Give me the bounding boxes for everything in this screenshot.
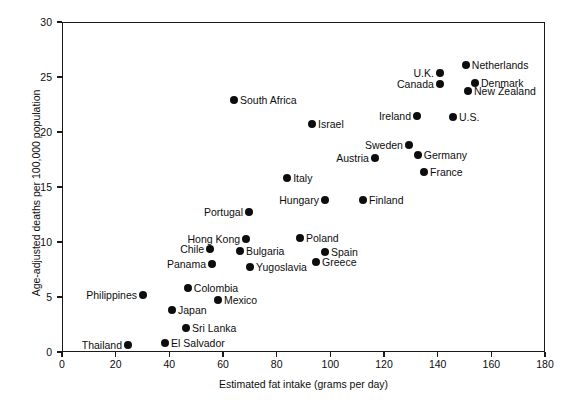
data-point-label: Ireland bbox=[379, 110, 411, 121]
data-point[interactable] bbox=[236, 247, 244, 255]
data-point-label: Sweden bbox=[365, 140, 403, 151]
data-point[interactable] bbox=[168, 306, 176, 314]
x-tick-label: 140 bbox=[429, 358, 447, 370]
data-point[interactable] bbox=[436, 69, 444, 77]
x-tick-mark bbox=[222, 352, 224, 357]
data-point-label: Chile bbox=[180, 243, 204, 254]
x-tick-mark bbox=[544, 352, 546, 357]
data-point[interactable] bbox=[296, 234, 304, 242]
data-point-label: Greece bbox=[322, 256, 356, 267]
x-tick-mark bbox=[330, 352, 332, 357]
x-tick-mark bbox=[169, 352, 171, 357]
data-point[interactable] bbox=[413, 112, 421, 120]
data-point[interactable] bbox=[161, 339, 169, 347]
data-point-label: Hungary bbox=[279, 195, 319, 206]
x-tick-label: 20 bbox=[110, 358, 122, 370]
x-tick-mark bbox=[115, 352, 117, 357]
y-axis-title: Age-adjusted deaths per 100,000 populati… bbox=[30, 43, 42, 343]
y-tick-label: 25 bbox=[40, 71, 52, 83]
data-point-label: Finland bbox=[369, 195, 403, 206]
x-tick-mark bbox=[276, 352, 278, 357]
data-point-label: New Zealand bbox=[474, 86, 536, 97]
data-point[interactable] bbox=[414, 151, 422, 159]
data-point[interactable] bbox=[124, 341, 132, 349]
data-point-label: France bbox=[430, 166, 463, 177]
data-point-label: Portugal bbox=[204, 207, 243, 218]
y-tick-label: 30 bbox=[40, 16, 52, 28]
x-tick-mark bbox=[491, 352, 493, 357]
data-point-label: Israel bbox=[318, 119, 344, 130]
data-point[interactable] bbox=[312, 258, 320, 266]
x-axis-title: Estimated fat intake (grams per day) bbox=[62, 378, 545, 390]
data-point[interactable] bbox=[464, 87, 472, 95]
x-tick-label: 0 bbox=[59, 358, 65, 370]
data-point-label: Thailand bbox=[82, 340, 122, 351]
data-point-label: Panama bbox=[167, 259, 206, 270]
x-tick-label: 120 bbox=[375, 358, 393, 370]
data-point[interactable] bbox=[208, 260, 216, 268]
x-tick-label: 160 bbox=[483, 358, 501, 370]
data-point-label: Philippines bbox=[86, 289, 137, 300]
data-point-label: Bulgaria bbox=[246, 245, 285, 256]
x-tick-mark bbox=[437, 352, 439, 357]
data-point-label: Germany bbox=[424, 150, 467, 161]
data-point[interactable] bbox=[436, 80, 444, 88]
data-point-label: Poland bbox=[306, 232, 339, 243]
data-point[interactable] bbox=[245, 208, 253, 216]
x-tick-label: 80 bbox=[271, 358, 283, 370]
scatter-chart-figure: 020406080100120140160180051015202530 Net… bbox=[0, 0, 564, 409]
data-point-label: Netherlands bbox=[472, 59, 529, 70]
y-tick-label: 15 bbox=[40, 181, 52, 193]
data-point-label: Canada bbox=[397, 78, 434, 89]
data-point[interactable] bbox=[371, 154, 379, 162]
data-point[interactable] bbox=[359, 196, 367, 204]
data-point-label: El Salvador bbox=[171, 338, 225, 349]
x-tick-label: 100 bbox=[322, 358, 340, 370]
data-point[interactable] bbox=[308, 120, 316, 128]
x-tick-label: 40 bbox=[163, 358, 175, 370]
data-point-label: Yugoslavia bbox=[256, 262, 307, 273]
data-point[interactable] bbox=[184, 284, 192, 292]
data-point-label: Japan bbox=[178, 305, 207, 316]
data-points-layer: NetherlandsU.K.DenmarkCanadaNew ZealandS… bbox=[62, 22, 545, 352]
data-point-label: Italy bbox=[293, 173, 312, 184]
x-tick-label: 180 bbox=[536, 358, 554, 370]
data-point-label: Mexico bbox=[224, 295, 257, 306]
y-tick-label: 10 bbox=[40, 236, 52, 248]
data-point[interactable] bbox=[449, 113, 457, 121]
data-point[interactable] bbox=[230, 96, 238, 104]
data-point[interactable] bbox=[206, 245, 214, 253]
data-point[interactable] bbox=[242, 235, 250, 243]
y-tick-label: 0 bbox=[46, 346, 52, 358]
x-tick-mark bbox=[383, 352, 385, 357]
x-tick-label: 60 bbox=[217, 358, 229, 370]
data-point[interactable] bbox=[214, 296, 222, 304]
x-tick-mark bbox=[61, 352, 63, 357]
data-point[interactable] bbox=[139, 291, 147, 299]
data-point[interactable] bbox=[246, 263, 254, 271]
data-point[interactable] bbox=[405, 141, 413, 149]
data-point[interactable] bbox=[182, 324, 190, 332]
data-point-label: Austria bbox=[336, 153, 369, 164]
data-point[interactable] bbox=[462, 61, 470, 69]
y-tick-label: 20 bbox=[40, 126, 52, 138]
data-point[interactable] bbox=[321, 196, 329, 204]
y-tick-label: 5 bbox=[46, 291, 52, 303]
data-point-label: Colombia bbox=[194, 283, 238, 294]
data-point[interactable] bbox=[420, 168, 428, 176]
data-point-label: U.S. bbox=[459, 111, 479, 122]
data-point-label: South Africa bbox=[240, 95, 297, 106]
data-point-label: Sri Lanka bbox=[192, 322, 236, 333]
data-point[interactable] bbox=[283, 174, 291, 182]
